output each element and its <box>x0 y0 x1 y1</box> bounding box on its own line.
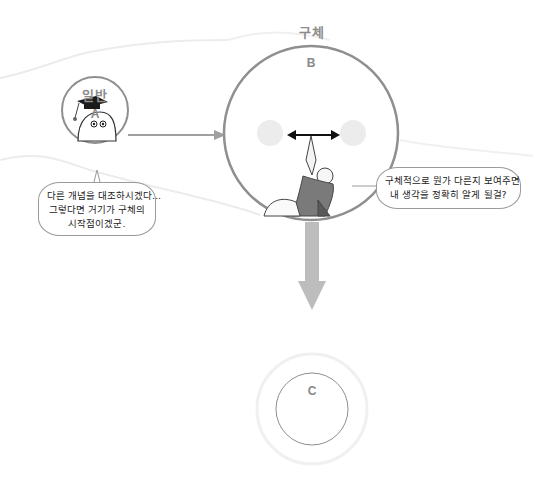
node-a-title: 일반 <box>75 85 115 104</box>
speech-bubble-b: 구체적으로 뭔가 다른지 보여주면 내 생각을 정확히 알게 될걸? <box>376 167 521 209</box>
focus-blob-right <box>340 120 366 146</box>
bubble-a-line-1: 다른 개념을 대조하시겠다... <box>47 189 147 203</box>
node-a-letter: A <box>85 107 105 121</box>
bubble-b-line-2: 내 생각을 정확히 알게 될걸? <box>385 188 512 202</box>
node-c-letter: C <box>302 384 322 398</box>
node-b-letter: B <box>301 56 321 70</box>
bubble-a-line-2: 그렇다면 거기가 구체의 <box>47 203 147 217</box>
focus-blob-left <box>257 120 283 146</box>
arrow-b-to-c <box>298 222 326 310</box>
node-b-title: 구체 <box>290 22 334 41</box>
bubble-a-line-3: 시작점이겠군. <box>47 217 147 231</box>
bubble-b-line-1: 구체적으로 뭔가 다른지 보여주면 <box>385 174 512 188</box>
speech-bubble-a: 다른 개념을 대조하시겠다... 그렇다면 거기가 구체의 시작점이겠군. <box>38 182 156 236</box>
diagram-canvas <box>0 0 533 498</box>
arrow-a-to-b <box>128 130 226 140</box>
